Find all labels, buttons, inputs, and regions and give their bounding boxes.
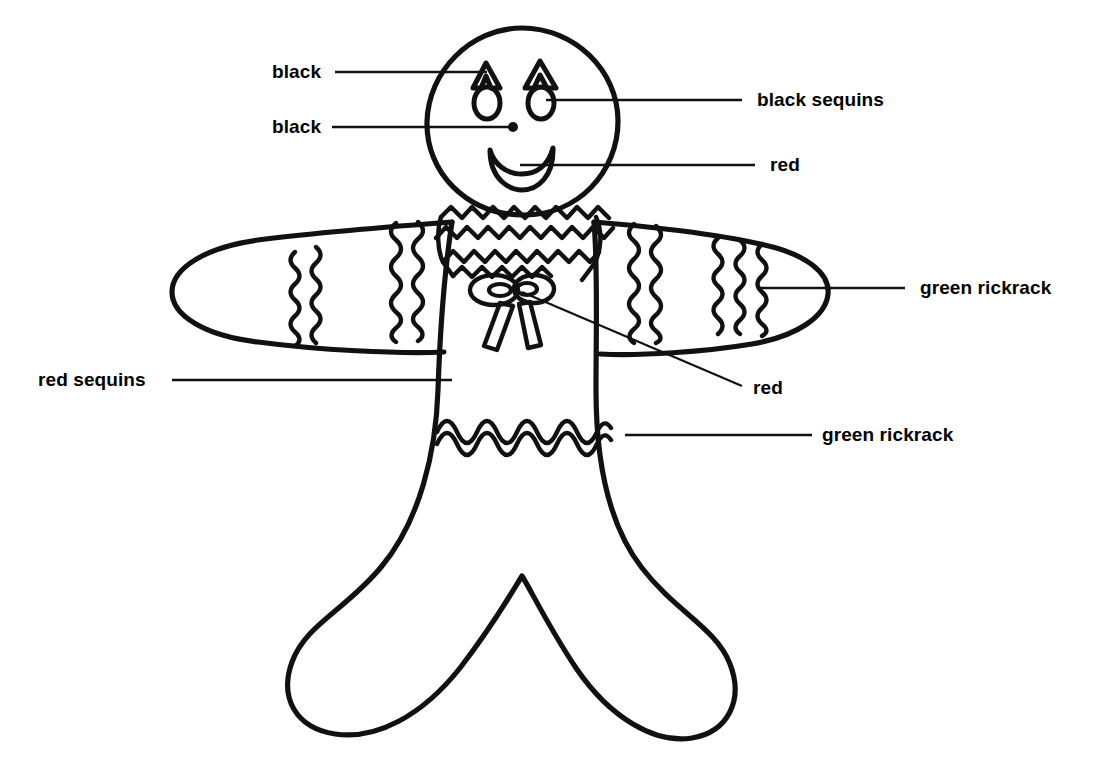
left-arm-rickrack-cuff-1 <box>291 252 300 346</box>
left-arm-rickrack-shoulder-1 <box>391 223 401 342</box>
collar-rickrack-row-3 <box>443 251 599 262</box>
eye-right-notch <box>534 87 549 91</box>
eyebrow-right <box>525 61 556 88</box>
label-red-sequins: red sequins <box>38 370 146 389</box>
label-mouth-red: red <box>770 155 800 174</box>
right-arm-rickrack-shoulder-1 <box>629 224 639 343</box>
bow-knot-left <box>489 284 511 296</box>
label-arm-green-rickrack: green rickrack <box>920 278 1051 297</box>
gingerbread-man-illustration <box>0 0 1107 780</box>
eyebrow-left <box>473 63 500 88</box>
leader-bow <box>522 292 742 386</box>
label-bow-red: red <box>753 378 783 397</box>
bow-tail-left <box>484 303 513 350</box>
right-arm-rickrack-cuff-1 <box>714 238 723 334</box>
bow-tail-right <box>519 302 541 348</box>
label-eyes-black-sequins: black sequins <box>757 90 884 109</box>
left-arm-rickrack-shoulder-2 <box>413 222 423 341</box>
eye-left <box>474 87 500 119</box>
left-arm-rickrack-cuff-2 <box>312 247 321 343</box>
collar-rickrack-row-2 <box>436 227 613 238</box>
right-arm-rickrack-cuff-3 <box>758 244 767 336</box>
label-eyebrows-black: black <box>272 62 321 81</box>
right-arm-rickrack-cuff-2 <box>736 240 745 334</box>
head-outline <box>427 28 618 215</box>
right-arm-rickrack-shoulder-2 <box>651 226 661 343</box>
label-waist-green-rickrack: green rickrack <box>822 425 953 444</box>
mouth-smile <box>490 148 553 190</box>
label-nose-black: black <box>272 117 321 136</box>
figure-canvas: black black black sequins red green rick… <box>0 0 1107 780</box>
